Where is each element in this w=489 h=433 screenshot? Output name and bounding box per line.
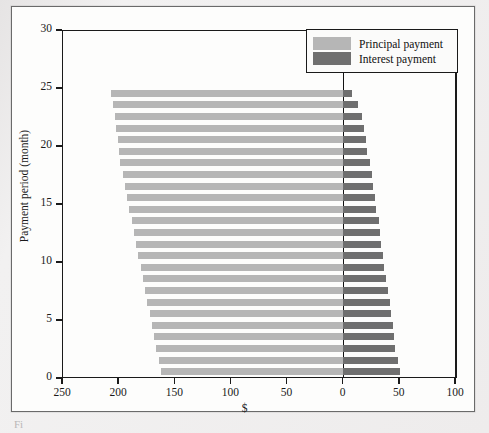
x-axis-tick	[342, 378, 343, 384]
bar-interest	[343, 333, 395, 340]
plot-right-border	[455, 30, 457, 378]
bar-principal	[123, 171, 343, 178]
bar-principal	[119, 148, 342, 155]
bar-principal	[118, 136, 343, 143]
x-axis-title: $	[0, 402, 489, 414]
bar-principal	[138, 252, 342, 259]
bar-principal	[141, 264, 343, 271]
x-axis-tick-label: 250	[42, 386, 82, 398]
y-axis-tick-label: 0	[22, 370, 52, 382]
bar-interest	[343, 159, 370, 166]
y-axis-tick-label: 30	[22, 22, 52, 34]
bar-principal	[115, 113, 343, 120]
bar-interest	[343, 357, 398, 364]
x-axis-tick	[398, 378, 399, 384]
legend-label-interest: Interest payment	[359, 53, 436, 65]
bar-principal	[154, 333, 343, 340]
bar-principal	[147, 299, 342, 306]
bar-interest	[343, 322, 394, 329]
y-axis-tick	[56, 145, 62, 146]
bar-principal	[159, 357, 343, 364]
x-axis-tick-label: 150	[154, 386, 194, 398]
bar-principal	[129, 206, 342, 213]
bar-interest	[343, 368, 400, 375]
bar-interest	[343, 264, 385, 271]
bar-principal	[132, 217, 343, 224]
bar-interest	[343, 217, 379, 224]
x-axis-tick-label: 100	[210, 386, 250, 398]
bar-interest	[343, 125, 364, 132]
caption-stub: Fi	[14, 418, 23, 430]
y-axis-tick	[56, 87, 62, 88]
bar-principal	[150, 310, 343, 317]
bar-interest	[343, 90, 352, 97]
bar-principal	[116, 125, 343, 132]
x-axis-tick-label: 50	[267, 386, 307, 398]
x-axis-tick	[286, 378, 287, 384]
x-axis-tick	[454, 378, 455, 384]
bar-principal	[136, 241, 343, 248]
x-axis-tick-label: 200	[98, 386, 138, 398]
legend: Principal payment Interest payment	[306, 29, 458, 73]
y-axis-tick	[56, 319, 62, 320]
bar-principal	[120, 159, 342, 166]
y-axis-tick	[56, 29, 62, 30]
bar-principal	[152, 322, 343, 329]
bar-interest	[343, 310, 391, 317]
bar-interest	[343, 194, 376, 201]
legend-label-principal: Principal payment	[359, 38, 443, 50]
x-axis-tick-label: 100	[435, 386, 475, 398]
bar-principal	[161, 368, 343, 375]
bar-interest	[343, 345, 396, 352]
y-axis-tick-label: 5	[22, 312, 52, 324]
bar-interest	[343, 275, 387, 282]
x-axis-tick	[117, 378, 118, 384]
bar-interest	[343, 241, 381, 248]
x-axis-tick	[230, 378, 231, 384]
bar-interest	[343, 252, 383, 259]
y-axis-tick	[56, 261, 62, 262]
bar-interest	[343, 287, 388, 294]
bar-interest	[343, 113, 362, 120]
bar-interest	[343, 101, 359, 108]
bar-principal	[113, 101, 343, 108]
y-axis-tick	[56, 203, 62, 204]
y-axis-title: Payment period (month)	[18, 96, 30, 276]
bar-interest	[343, 136, 367, 143]
x-axis-tick	[174, 378, 175, 384]
legend-swatch-principal	[313, 37, 351, 50]
legend-entry-principal: Principal payment	[313, 37, 451, 50]
x-axis-tick-label: 50	[379, 386, 419, 398]
bar-interest	[343, 183, 373, 190]
bar-principal	[156, 345, 342, 352]
y-axis-tick-label: 25	[22, 80, 52, 92]
bar-interest	[343, 148, 368, 155]
bar-interest	[343, 299, 390, 306]
legend-swatch-interest	[313, 52, 351, 65]
bar-interest	[343, 229, 380, 236]
x-axis-tick	[61, 378, 62, 384]
bar-principal	[125, 183, 343, 190]
bar-principal	[111, 90, 342, 97]
bar-principal	[134, 229, 343, 236]
legend-entry-interest: Interest payment	[313, 52, 451, 65]
figure-page: 05101520253025020015010050050100 Payment…	[0, 0, 489, 433]
x-axis-tick-label: 0	[323, 386, 363, 398]
bar-principal	[143, 275, 343, 282]
bar-interest	[343, 171, 372, 178]
bar-principal	[145, 287, 343, 294]
bar-interest	[343, 206, 377, 213]
bar-principal	[127, 194, 343, 201]
